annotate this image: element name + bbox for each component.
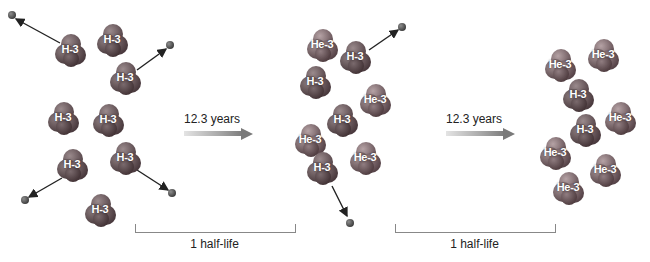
atom-label: He-3 [293, 133, 327, 145]
atom-label: H-3 [108, 71, 142, 83]
beta-particle-icon [168, 189, 176, 197]
atom-label: H-3 [53, 43, 87, 55]
hydrogen-3-atom: H-3 [108, 61, 142, 95]
time-arrow-2 [446, 131, 504, 136]
atom-label: H-3 [325, 113, 359, 125]
time-arrow-2-head [503, 128, 515, 140]
helium-3-atom: He-3 [603, 101, 637, 135]
emission-arrow [332, 186, 347, 216]
transition-label-1: 12.3 years [184, 112, 240, 126]
atom-label: He-3 [358, 93, 392, 105]
atom-label: He-3 [348, 151, 382, 163]
hydrogen-3-atom: H-3 [561, 78, 595, 112]
hydrogen-3-atom: H-3 [338, 40, 372, 74]
atom-label: He-3 [538, 146, 572, 158]
hydrogen-3-atom: H-3 [298, 65, 332, 99]
atom-label: He-3 [586, 48, 620, 60]
helium-3-atom: He-3 [358, 83, 392, 117]
half-life-diagram: H-3H-3H-3H-3H-3H-3H-3H-3He-3H-3H-3He-3H-… [0, 0, 650, 262]
time-arrow-1 [184, 131, 242, 136]
atom-label: He-3 [305, 38, 339, 50]
hydrogen-3-atom: H-3 [53, 33, 87, 67]
hydrogen-3-atom: H-3 [95, 23, 129, 57]
atom-label: He-3 [588, 163, 622, 175]
atom-label: He-3 [543, 58, 577, 70]
time-arrow-1-head [241, 128, 253, 140]
helium-3-atom: He-3 [305, 28, 339, 62]
atom-label: H-3 [91, 113, 125, 125]
atom-label: He-3 [603, 111, 637, 123]
helium-3-atom: He-3 [538, 136, 572, 170]
atom-label: H-3 [338, 50, 372, 62]
half-life-bracket-1 [135, 224, 296, 233]
atom-label: H-3 [108, 151, 142, 163]
hydrogen-3-atom: H-3 [46, 101, 80, 135]
transition-label-2: 12.3 years [446, 112, 502, 126]
half-life-label-1: 1 half-life [135, 237, 294, 251]
half-life-label-2: 1 half-life [395, 237, 554, 251]
beta-particle-icon [8, 11, 16, 19]
hydrogen-3-atom: H-3 [568, 113, 602, 147]
atom-label: H-3 [46, 111, 80, 123]
atom-label: H-3 [55, 158, 89, 170]
beta-particle-icon [166, 41, 174, 49]
beta-particle-icon [346, 219, 354, 227]
hydrogen-3-atom: H-3 [325, 103, 359, 137]
hydrogen-3-atom: H-3 [108, 141, 142, 175]
hydrogen-3-atom: H-3 [55, 148, 89, 182]
emission-arrow [369, 30, 398, 50]
helium-3-atom: He-3 [588, 153, 622, 187]
hydrogen-3-atom: H-3 [83, 193, 117, 227]
atom-label: H-3 [561, 88, 595, 100]
atom-label: He-3 [551, 181, 585, 193]
atom-label: H-3 [298, 75, 332, 87]
beta-particle-icon [398, 23, 406, 31]
atom-label: H-3 [305, 161, 339, 173]
hydrogen-3-atom: H-3 [305, 151, 339, 185]
helium-3-atom: He-3 [543, 48, 577, 82]
helium-3-atom: He-3 [348, 141, 382, 175]
atom-label: H-3 [568, 123, 602, 135]
atom-label: H-3 [95, 33, 129, 45]
half-life-bracket-2 [395, 224, 556, 233]
beta-particle-icon [21, 196, 29, 204]
helium-3-atom: He-3 [551, 171, 585, 205]
hydrogen-3-atom: H-3 [91, 103, 125, 137]
helium-3-atom: He-3 [586, 38, 620, 72]
atom-label: H-3 [83, 203, 117, 215]
